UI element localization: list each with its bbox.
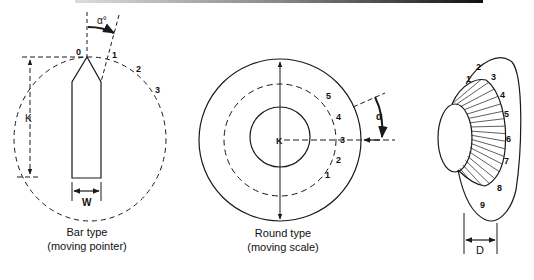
bar-caption-subtitle: (moving pointer): [47, 240, 126, 252]
round-mark-2: 2: [336, 155, 341, 165]
disc-mark-1: 1: [466, 74, 471, 84]
bar-caption-title: Bar type: [67, 226, 108, 238]
top-rule: [75, 0, 483, 3]
bar-w-label: W: [82, 197, 92, 208]
bar-mark-2: 2: [136, 64, 141, 74]
round-type-labels: 1 2 3 4 5 K α Round type (moving scale): [247, 91, 383, 253]
round-caption-title: Round type: [255, 227, 311, 239]
disc-mark-7: 7: [504, 156, 509, 166]
round-k-label: K: [276, 136, 283, 146]
round-angle-label: α: [376, 111, 383, 122]
bar-mark-0: 0: [76, 47, 81, 57]
disc-d-label: D: [476, 244, 484, 256]
disc-type-labels: 1 2 3 4 5 6 7 8 9 D: [466, 62, 511, 256]
bar-mark-1: 1: [112, 50, 117, 60]
round-mark-4: 4: [336, 112, 341, 122]
bar-mark-3: 3: [155, 85, 160, 95]
deflection-line-round: [353, 93, 385, 107]
bar-type-figure: [14, 12, 166, 221]
disc-mark-5: 5: [504, 109, 509, 119]
disc-mark-8: 8: [497, 183, 502, 193]
diagram-canvas: α° 0 1 2 3 K W Bar type (moving pointer)…: [0, 0, 534, 280]
disc-mark-4: 4: [500, 90, 505, 100]
bar-k-label: K: [25, 113, 32, 124]
round-type-figure: [199, 59, 395, 221]
angle-arrow: [88, 27, 114, 33]
disc-mark-9: 9: [480, 200, 485, 210]
round-mark-1: 1: [325, 170, 330, 180]
round-caption-subtitle: (moving scale): [247, 241, 319, 253]
bar-type-labels: α° 0 1 2 3 K W Bar type (moving pointer): [25, 15, 160, 252]
round-mark-3: 3: [340, 135, 345, 145]
disc-mark-2: 2: [476, 62, 481, 72]
disc-mark-6: 6: [506, 134, 511, 144]
round-mark-5: 5: [326, 91, 331, 101]
center-hole: [438, 104, 472, 172]
bar-pointer: [72, 57, 101, 178]
disc-mark-3: 3: [491, 72, 496, 82]
bar-angle-label: α°: [97, 15, 107, 26]
